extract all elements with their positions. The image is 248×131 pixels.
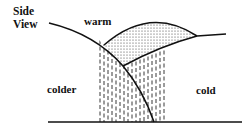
title-side: Side [13, 6, 34, 18]
label-warm: warm [84, 16, 112, 27]
title-view: View [13, 19, 37, 31]
front-side-view-diagram: Side View warm colder cold [0, 0, 248, 131]
label-colder: colder [47, 84, 76, 95]
label-cold: cold [196, 85, 216, 96]
